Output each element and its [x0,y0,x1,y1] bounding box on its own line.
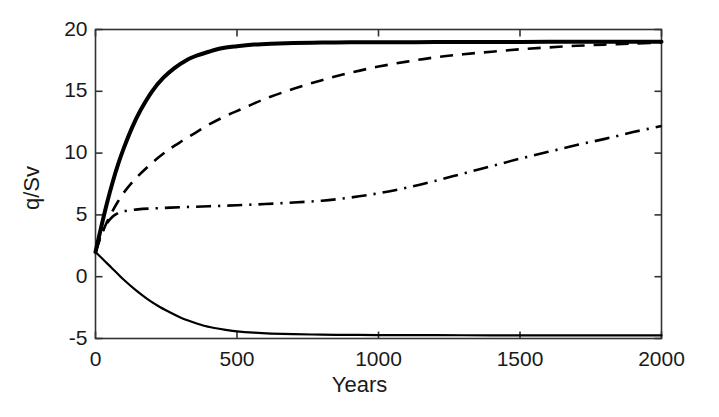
axis-ticks [96,30,662,339]
x-tick-label: 0 [46,347,146,371]
x-tick-label: 2000 [612,347,712,371]
plot-frame [96,30,662,339]
x-tick-label: 1000 [329,347,429,371]
y-tick-label: 15 [6,78,88,102]
series-line-dash-dot [96,126,662,252]
x-tick-label: 1500 [470,347,570,371]
figure-container: 0500100015002000-505101520 Years q/Sv [0,0,719,417]
x-axis-title: Years [0,372,719,398]
x-tick-label: 500 [187,347,287,371]
y-tick-label: 0 [6,264,88,288]
y-tick-label: 20 [6,17,88,41]
series-line-dashed [96,43,662,252]
axis-frame [96,30,662,339]
series-line-thin-solid [96,252,662,335]
data-series-group [96,42,662,336]
y-tick-label: 10 [6,140,88,164]
y-tick-label: 5 [6,202,88,226]
y-axis-title: q/Sv [19,138,45,238]
y-tick-label: -5 [6,326,88,350]
series-line-thick-solid [96,42,662,252]
